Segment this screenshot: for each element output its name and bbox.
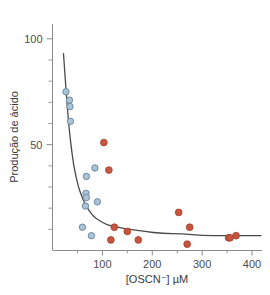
data-point bbox=[92, 165, 98, 171]
y-tick-label: 50 bbox=[30, 139, 42, 151]
data-point bbox=[94, 199, 100, 205]
scatter-plot: 100200300400 50100 [OSCN⁻] µM Produção d… bbox=[0, 0, 270, 295]
y-tick-label: 100 bbox=[24, 33, 42, 45]
x-tick-label: 100 bbox=[93, 258, 111, 270]
data-point bbox=[135, 237, 142, 244]
data-point bbox=[83, 194, 89, 200]
x-axis-tick-labels: 100200300400 bbox=[93, 258, 261, 270]
y-axis-tick-labels: 50100 bbox=[24, 33, 42, 151]
data-series-blue bbox=[63, 89, 101, 239]
y-axis-title: Produção de ácido bbox=[8, 91, 20, 183]
data-point bbox=[124, 228, 131, 235]
data-point bbox=[63, 89, 69, 95]
data-point bbox=[83, 173, 89, 179]
x-axis-ticks bbox=[77, 251, 252, 256]
y-axis-ticks bbox=[47, 39, 53, 230]
data-point bbox=[184, 241, 191, 248]
axes bbox=[53, 24, 263, 251]
fit-curve bbox=[63, 54, 261, 236]
data-point bbox=[186, 224, 193, 231]
data-point bbox=[233, 232, 240, 239]
data-point bbox=[107, 237, 114, 244]
x-axis-title: [OSCN⁻] µM bbox=[126, 273, 188, 285]
data-point bbox=[82, 203, 88, 209]
data-point bbox=[67, 118, 73, 124]
data-point bbox=[79, 224, 85, 230]
data-point bbox=[111, 224, 118, 231]
data-point bbox=[88, 232, 94, 238]
data-series-red bbox=[100, 139, 239, 247]
data-point bbox=[100, 139, 107, 146]
chart-figure: 100200300400 50100 [OSCN⁻] µM Produção d… bbox=[0, 0, 270, 295]
x-tick-label: 300 bbox=[193, 258, 211, 270]
data-point bbox=[66, 97, 72, 103]
data-point bbox=[175, 209, 182, 216]
x-tick-label: 400 bbox=[243, 258, 261, 270]
x-tick-label: 200 bbox=[143, 258, 161, 270]
data-point bbox=[105, 167, 112, 174]
data-point bbox=[67, 103, 73, 109]
